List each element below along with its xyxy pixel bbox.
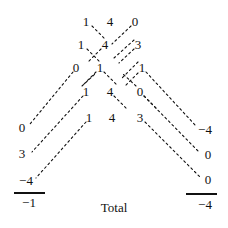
- digit-r3-c1: 0: [73, 61, 80, 74]
- right-sum-value-1: −4: [198, 123, 212, 136]
- right-sum-value-4: −4: [198, 198, 212, 211]
- right-sum-value-2: 0: [205, 148, 212, 161]
- dash-r4c2-down: [114, 96, 127, 109]
- digit-r2-c2: 4: [102, 38, 109, 51]
- lattice-diagram-canvas: 14014301114014303−4−400−4−1Total: [0, 0, 228, 228]
- dash-r4c3-up: [123, 74, 136, 86]
- digit-r1-c2: 4: [107, 15, 114, 28]
- digit-r3-c2: 1: [97, 61, 104, 74]
- digit-r2-c1: 1: [78, 38, 85, 51]
- left-sum-value-3: −4: [19, 174, 33, 187]
- digit-r4-c1: 1: [83, 85, 90, 98]
- total-caption: Total: [101, 201, 128, 214]
- fan-right-3: [145, 122, 200, 177]
- dash-r1c3-down: [112, 26, 131, 44]
- left-sum-rule: [14, 192, 45, 194]
- fan-left-3: [36, 122, 86, 178]
- digit-r4-c3: 0: [137, 85, 144, 98]
- digit-r4-c2: 4: [107, 85, 114, 98]
- fan-left-2: [32, 96, 83, 152]
- left-sum-value-1: 0: [19, 121, 26, 134]
- fan-right-2: [144, 96, 199, 152]
- dash-r2c3-up: [114, 40, 134, 58]
- left-sum-value-2: 3: [19, 147, 26, 160]
- right-sum-value-3: 0: [205, 173, 212, 186]
- digit-r5-c2: 4: [109, 111, 116, 124]
- right-sum-rule: [186, 193, 217, 195]
- left-grand-total: −1: [22, 196, 36, 209]
- digit-r5-c1: 1: [86, 111, 93, 124]
- fan-right-1: [146, 72, 196, 126]
- digit-r5-c3: 3: [137, 111, 144, 124]
- fan-left-1: [30, 72, 73, 124]
- digit-r2-c3: 3: [135, 38, 142, 51]
- digit-r3-c3: 1: [139, 61, 146, 74]
- digit-r1-c1: 1: [83, 15, 90, 28]
- digit-r1-c3: 0: [132, 15, 139, 28]
